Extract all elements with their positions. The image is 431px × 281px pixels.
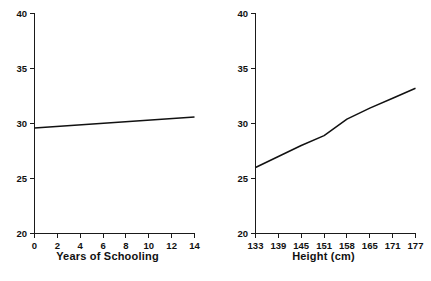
x-tick-label: 8 (123, 240, 128, 251)
x-tick-label: 0 (32, 240, 37, 251)
y-tick-label: 30 (237, 118, 248, 129)
data-series-line (35, 117, 195, 128)
x-tick-label: 2 (55, 240, 60, 251)
chart-panel-left: 202530354002468101214 (0, 0, 215, 281)
x-tick-label: 171 (385, 240, 402, 251)
line-chart-years-of-schooling: 202530354002468101214 (0, 0, 215, 250)
x-axis-title-right: Height (cm) (216, 250, 431, 262)
x-tick-label: 145 (293, 240, 310, 251)
y-tick-label: 25 (16, 173, 27, 184)
x-tick-label: 133 (248, 240, 264, 251)
chart-panel-right: 2025303540133139145151158165171177 (216, 0, 431, 281)
x-axis-title-left: Years of Schooling (0, 250, 215, 262)
y-tick-label: 20 (237, 228, 248, 239)
line-chart-height-cm: 2025303540133139145151158165171177 (216, 0, 431, 250)
y-tick-label: 40 (237, 8, 248, 19)
figure-canvas: 202530354002468101214 Years of Schooling… (0, 0, 431, 281)
x-tick-label: 139 (270, 240, 286, 251)
x-tick-label: 158 (339, 240, 355, 251)
y-tick-label: 35 (16, 63, 27, 74)
x-tick-label: 12 (166, 240, 177, 251)
x-tick-label: 6 (100, 240, 105, 251)
data-series-line (256, 88, 416, 167)
y-tick-label: 20 (16, 228, 27, 239)
y-tick-label: 40 (16, 8, 27, 19)
y-tick-label: 25 (237, 173, 248, 184)
x-tick-label: 151 (316, 240, 333, 251)
x-tick-label: 4 (78, 240, 84, 251)
x-tick-label: 165 (362, 240, 379, 251)
x-tick-label: 10 (143, 240, 154, 251)
y-tick-label: 30 (16, 118, 27, 129)
x-tick-label: 14 (189, 240, 200, 251)
x-tick-label: 177 (408, 240, 424, 251)
y-tick-label: 35 (237, 63, 248, 74)
